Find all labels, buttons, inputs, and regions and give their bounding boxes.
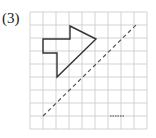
arrow-shape bbox=[43, 26, 96, 77]
grid bbox=[30, 12, 147, 129]
grid-diagram bbox=[0, 0, 156, 138]
